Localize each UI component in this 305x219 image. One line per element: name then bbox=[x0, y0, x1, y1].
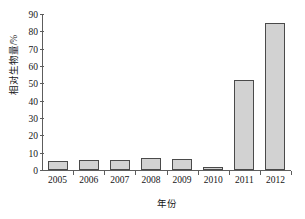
y-tick-mark bbox=[40, 66, 44, 67]
y-tick-mark bbox=[40, 83, 44, 84]
y-tick-mark bbox=[40, 135, 44, 136]
x-tick-label: 2012 bbox=[255, 175, 295, 185]
bar-chart: 相对生物量/% 0102030405060708090 200520062007… bbox=[0, 0, 305, 219]
y-tick-label: 80 bbox=[29, 27, 39, 37]
y-tick-mark bbox=[40, 31, 44, 32]
y-tick-mark bbox=[40, 153, 44, 154]
bar bbox=[79, 160, 99, 170]
y-tick-mark bbox=[40, 49, 44, 50]
y-tick-label: 50 bbox=[29, 79, 39, 89]
y-axis-line bbox=[42, 15, 43, 171]
y-tick-mark bbox=[40, 14, 44, 15]
bar bbox=[48, 161, 68, 170]
plot-area: 0102030405060708090 20052006200720082009… bbox=[42, 15, 291, 171]
y-axis-title: 相对生物量/% bbox=[6, 0, 20, 130]
y-tick-label: 10 bbox=[29, 149, 39, 159]
bar bbox=[172, 159, 192, 170]
y-tick-label: 70 bbox=[29, 45, 39, 55]
y-tick-label: 20 bbox=[29, 131, 39, 141]
bar bbox=[203, 167, 223, 170]
y-tick-label: 90 bbox=[29, 10, 39, 20]
y-tick-mark bbox=[40, 170, 44, 171]
bar bbox=[141, 158, 161, 170]
x-axis-title: 年份 bbox=[42, 196, 291, 210]
y-tick-mark bbox=[40, 118, 44, 119]
bar bbox=[234, 80, 254, 170]
bar bbox=[265, 23, 285, 170]
y-tick-label: 30 bbox=[29, 114, 39, 124]
bar bbox=[110, 160, 130, 170]
y-tick-mark bbox=[40, 101, 44, 102]
y-tick-label: 60 bbox=[29, 62, 39, 72]
y-tick-label: 40 bbox=[29, 97, 39, 107]
